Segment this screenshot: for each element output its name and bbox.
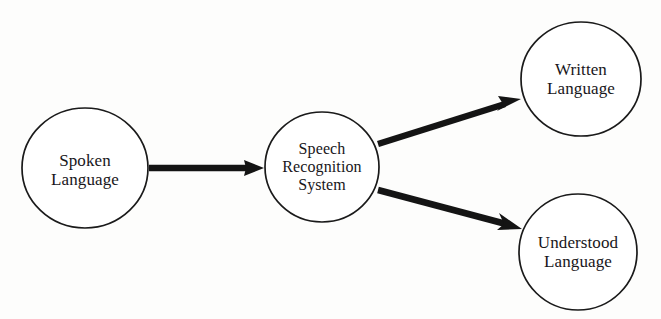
edge-line [378, 190, 506, 224]
edge-system-to-understood [378, 190, 522, 230]
edge-line [378, 104, 505, 144]
diagram-container: Spoken Language Speech Recognition Syste… [0, 0, 661, 319]
arrowhead-icon [244, 160, 264, 176]
node-spoken-language[interactable] [22, 108, 148, 228]
edge-system-to-written [378, 96, 521, 144]
edge-spoken-to-system [149, 160, 264, 176]
node-written-language[interactable] [521, 22, 641, 136]
diagram-canvas [0, 0, 661, 319]
node-understood-language[interactable] [519, 194, 637, 310]
node-speech-recognition-system[interactable] [265, 112, 379, 222]
